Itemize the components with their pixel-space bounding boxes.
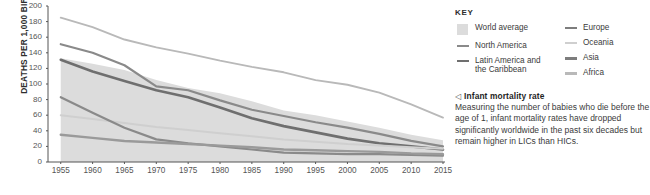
legend-item[interactable]: Latin America andthe Caribbean bbox=[457, 56, 559, 75]
x-tick-label: 1985 bbox=[243, 166, 261, 175]
x-tick-label: 1955 bbox=[52, 166, 70, 175]
legend-item-label: Asia bbox=[583, 53, 599, 63]
legend-item-label: World average bbox=[475, 23, 528, 33]
legend-item[interactable]: World average bbox=[457, 23, 559, 35]
x-tick-label: 1960 bbox=[83, 166, 101, 175]
y-tick-label: 100 bbox=[20, 80, 42, 88]
note-heading: ◁Infant mortality rate bbox=[455, 91, 650, 101]
legend-item[interactable]: Oceania bbox=[565, 38, 650, 48]
x-tick-label: 2000 bbox=[338, 166, 356, 175]
legend-dash-icon bbox=[565, 53, 578, 59]
y-tick-label: 120 bbox=[20, 64, 42, 72]
y-tick-label: 80 bbox=[20, 96, 42, 104]
x-tick-label: 1980 bbox=[211, 166, 229, 175]
legend-title: KEY bbox=[455, 8, 650, 17]
legend-dash-icon bbox=[457, 41, 470, 47]
x-tick-label: 1995 bbox=[306, 166, 324, 175]
legend-item-label: Latin America andthe Caribbean bbox=[475, 56, 541, 75]
legend-swatch-icon bbox=[457, 23, 470, 35]
y-tick-label: 60 bbox=[20, 111, 42, 119]
legend-dash-icon bbox=[457, 56, 470, 62]
legend-column-left: World averageNorth AmericaLatin America … bbox=[457, 23, 559, 80]
note-block: ◁Infant mortality rate Measuring the num… bbox=[455, 91, 650, 147]
note-heading-text: Infant mortality rate bbox=[464, 91, 544, 101]
y-tick-label: 40 bbox=[20, 127, 42, 135]
infographic-root: DEATHS PER 1,000 BIRTHS 0204060801001201… bbox=[0, 0, 650, 195]
legend-item-label: Europe bbox=[583, 23, 609, 33]
x-tick-label: 1965 bbox=[115, 166, 133, 175]
x-tick-label: 1990 bbox=[275, 166, 293, 175]
legend-dash-icon bbox=[565, 23, 578, 29]
legend-item[interactable]: Asia bbox=[565, 53, 650, 63]
x-axis-tick-labels: 1955196019651970197519801985199019952000… bbox=[46, 166, 447, 180]
note-body: Measuring the number of babies who die b… bbox=[455, 102, 650, 147]
x-tick-label: 1970 bbox=[147, 166, 165, 175]
x-tick-label: 2005 bbox=[370, 166, 388, 175]
legend: World averageNorth AmericaLatin America … bbox=[455, 23, 650, 85]
legend-item[interactable]: Europe bbox=[565, 23, 650, 33]
y-tick-label: 0 bbox=[20, 158, 42, 166]
x-tick-label: 2015 bbox=[434, 166, 452, 175]
y-tick-label: 140 bbox=[20, 49, 42, 57]
chart-panel: DEATHS PER 1,000 BIRTHS 0204060801001201… bbox=[0, 0, 450, 195]
legend-dash-icon bbox=[565, 68, 578, 74]
x-tick-label: 1975 bbox=[179, 166, 197, 175]
legend-item-label: North America bbox=[475, 41, 527, 51]
y-tick-label: 20 bbox=[20, 142, 42, 150]
y-axis-tick-labels: 020406080100120140160180200 bbox=[18, 0, 42, 164]
legend-column-right: EuropeOceaniaAsiaAfrica bbox=[565, 23, 650, 83]
legend-item[interactable]: Africa bbox=[565, 68, 650, 78]
legend-item[interactable]: North America bbox=[457, 41, 559, 51]
legend-item-label: Oceania bbox=[583, 38, 614, 48]
y-tick-label: 180 bbox=[20, 18, 42, 26]
legend-dash-icon bbox=[565, 38, 578, 44]
y-tick-label: 200 bbox=[20, 2, 42, 10]
left-triangle-icon: ◁ bbox=[455, 91, 461, 101]
chart-svg bbox=[46, 4, 447, 164]
legend-item-label: Africa bbox=[583, 68, 604, 78]
x-tick-label: 2010 bbox=[402, 166, 420, 175]
y-tick-label: 160 bbox=[20, 33, 42, 41]
plot-area bbox=[46, 4, 447, 164]
side-panel: KEY World averageNorth AmericaLatin Amer… bbox=[455, 0, 650, 195]
